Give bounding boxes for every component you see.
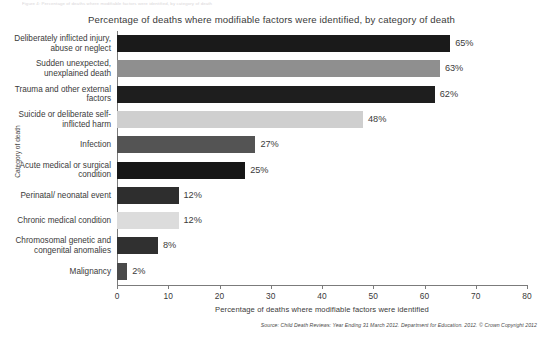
category-label: Acute medical or surgical condition [8, 158, 111, 183]
bar-row: 65% [117, 31, 527, 56]
bar [117, 212, 179, 229]
category-label: Sudden unexpected, unexplained death [8, 56, 111, 81]
bar-row: 63% [117, 56, 527, 81]
bar-value-label: 65% [450, 35, 473, 52]
bar [117, 187, 179, 204]
bar-row: 12% [117, 183, 527, 208]
bar-row: 2% [117, 259, 527, 284]
category-label: Suicide or deliberate self-inflicted har… [8, 107, 111, 132]
bar [117, 86, 435, 103]
x-axis-title: Percentage of deaths where modifiable fa… [117, 305, 527, 314]
chart-page: Figure 4: Percentage of deaths where mod… [0, 0, 543, 337]
category-label: Infection [8, 132, 111, 157]
x-tick-mark [425, 285, 426, 289]
x-tick-mark [322, 285, 323, 289]
bar-value-label: 25% [245, 162, 268, 179]
bar [117, 136, 255, 153]
chart-title: Percentage of deaths where modifiable fa… [0, 14, 543, 25]
bar-value-label: 12% [179, 187, 202, 204]
x-tick-label: 40 [307, 291, 337, 301]
bar-value-label: 48% [363, 111, 386, 128]
x-tick-mark [476, 285, 477, 289]
x-tick-mark [220, 285, 221, 289]
bar [117, 60, 440, 77]
bar-row: 27% [117, 132, 527, 157]
bar-row: 48% [117, 107, 527, 132]
plot-area: 65%63%62%48%27%25%12%12%8%2% [117, 31, 527, 284]
x-tick-mark [117, 285, 118, 289]
category-label: Trauma and other external factors [8, 82, 111, 107]
bar [117, 35, 450, 52]
x-tick-label: 50 [358, 291, 388, 301]
category-label: Malignancy [8, 259, 111, 284]
category-label: Chronic medical condition [8, 208, 111, 233]
x-tick-label: 70 [461, 291, 491, 301]
x-tick-label: 10 [153, 291, 183, 301]
x-tick-label: 80 [512, 291, 542, 301]
bar [117, 237, 158, 254]
bar [117, 111, 363, 128]
x-tick-mark [373, 285, 374, 289]
bar-value-label: 2% [127, 263, 145, 280]
category-label: Deliberately inflicted injury, abuse or … [8, 31, 111, 56]
category-axis-labels: Deliberately inflicted injury, abuse or … [8, 31, 114, 284]
bar-value-label: 62% [435, 86, 458, 103]
bar-value-label: 8% [158, 237, 176, 254]
x-tick-label: 60 [410, 291, 440, 301]
bar [117, 162, 245, 179]
clipped-header-text: Figure 4: Percentage of deaths where mod… [22, 0, 522, 7]
bar-row: 8% [117, 233, 527, 258]
source-note: Source: Child Death Reviews: Year Ending… [261, 322, 537, 328]
category-label: Perinatal/ neonatal event [8, 183, 111, 208]
bar-row: 25% [117, 158, 527, 183]
bar-row: 12% [117, 208, 527, 233]
bar-value-label: 27% [255, 136, 278, 153]
y-axis-title: Category of death [14, 112, 21, 192]
x-tick-label: 20 [205, 291, 235, 301]
bar-row: 62% [117, 82, 527, 107]
category-label: Chromosomal genetic and congenital anoma… [8, 233, 111, 258]
x-tick-mark [271, 285, 272, 289]
x-tick-label: 0 [102, 291, 132, 301]
bar [117, 263, 127, 280]
bar-value-label: 12% [179, 212, 202, 229]
bar-value-label: 63% [440, 60, 463, 77]
x-tick-mark [168, 285, 169, 289]
x-tick-mark [527, 285, 528, 289]
x-tick-label: 30 [256, 291, 286, 301]
